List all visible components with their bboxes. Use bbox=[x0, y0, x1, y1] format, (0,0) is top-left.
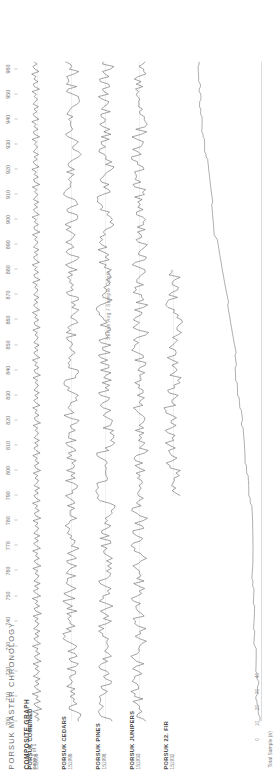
chronology-sheet: PORSUK MASTER CHRONOLOGY COMPOSITE GRAPH… bbox=[0, 0, 279, 777]
x-tick-mark bbox=[14, 544, 17, 545]
series-label: PORSUK PINES bbox=[94, 723, 100, 769]
series-label: PORSUK COMBINED bbox=[26, 708, 32, 769]
x-tick-label: 830 bbox=[4, 390, 10, 399]
series-polyline-svg bbox=[88, 61, 122, 721]
x-tick-mark bbox=[14, 494, 17, 495]
series-polyline-svg bbox=[20, 61, 54, 721]
x-tick-mark bbox=[14, 93, 17, 94]
series-label: PORSUK 22. FIR bbox=[162, 720, 168, 769]
x-tick-label: 920 bbox=[4, 164, 10, 173]
x-tick-label: 900 bbox=[4, 215, 10, 224]
x-tick-mark bbox=[14, 193, 17, 194]
x-tick-mark bbox=[14, 268, 17, 269]
depth-tick-label: 30 bbox=[254, 688, 259, 693]
series-id: 151930 bbox=[135, 753, 140, 769]
depth-tick-label: 0 bbox=[254, 738, 259, 741]
series-label: PORSUK CEDARS bbox=[60, 715, 66, 769]
x-tick-mark bbox=[14, 419, 17, 420]
x-tick-label: 760 bbox=[4, 566, 10, 575]
x-tick-label: 780 bbox=[4, 516, 10, 525]
x-tick-mark bbox=[14, 394, 17, 395]
depth-tick-label: 20 bbox=[254, 704, 259, 709]
x-tick-label: 890 bbox=[4, 240, 10, 249]
x-tick-label: 930 bbox=[4, 139, 10, 148]
x-tick-label: 880 bbox=[4, 265, 10, 274]
x-tick-mark bbox=[14, 519, 17, 520]
x-tick-mark bbox=[14, 168, 17, 169]
series-polyline-svg bbox=[122, 61, 156, 721]
x-tick-label: 750 bbox=[4, 591, 10, 600]
x-tick-mark bbox=[14, 318, 17, 319]
x-tick-label: 950 bbox=[4, 89, 10, 98]
x-tick-mark bbox=[14, 369, 17, 370]
x-tick-mark bbox=[14, 645, 17, 646]
x-tick-mark bbox=[14, 620, 17, 621]
x-tick-mark bbox=[14, 143, 17, 144]
series-trace bbox=[20, 61, 54, 721]
series-id: 151932 bbox=[169, 753, 174, 769]
x-tick-label: 770 bbox=[4, 541, 10, 550]
x-tick-label: 860 bbox=[4, 315, 10, 324]
series-label: PORSUK JUNIPERS bbox=[128, 710, 134, 769]
x-tick-label: 720 bbox=[4, 666, 10, 675]
x-tick-mark bbox=[14, 344, 17, 345]
x-tick-mark bbox=[14, 243, 17, 244]
series-polyline-svg bbox=[54, 61, 88, 721]
series-trace bbox=[54, 61, 88, 721]
x-tick-label: 800 bbox=[4, 466, 10, 475]
x-tick-label: 940 bbox=[4, 114, 10, 123]
x-tick-label: 820 bbox=[4, 415, 10, 424]
x-tick-mark bbox=[14, 68, 17, 69]
x-tick-label: 870 bbox=[4, 290, 10, 299]
x-tick-label: 700 bbox=[4, 717, 10, 726]
x-tick-label: 960 bbox=[4, 64, 10, 73]
series-id: 151998 bbox=[101, 753, 106, 769]
x-tick-mark bbox=[14, 218, 17, 219]
series-trace bbox=[122, 61, 156, 721]
x-tick-mark bbox=[14, 569, 17, 570]
x-tick-mark bbox=[14, 695, 17, 696]
x-tick-label: 850 bbox=[4, 340, 10, 349]
series-id: 151998 bbox=[33, 753, 38, 769]
depth-tick-label: 10 bbox=[254, 720, 259, 725]
series-trace bbox=[156, 61, 190, 721]
x-tick-mark bbox=[14, 595, 17, 596]
x-tick-label: 710 bbox=[4, 691, 10, 700]
x-tick-label: 730 bbox=[4, 641, 10, 650]
series-polyline-svg bbox=[156, 61, 190, 721]
x-tick-mark bbox=[14, 720, 17, 721]
x-tick-label: 810 bbox=[4, 440, 10, 449]
x-tick-mark bbox=[14, 444, 17, 445]
series-id: 151998 bbox=[67, 753, 72, 769]
depth-panel-title: Series Avg / Sample Depth bbox=[104, 270, 110, 340]
x-tick-label: 910 bbox=[4, 190, 10, 199]
depth-xaxis-label: Total Sample (n) bbox=[266, 731, 272, 767]
x-tick-mark bbox=[14, 118, 17, 119]
x-tick-mark bbox=[14, 469, 17, 470]
sample-depth-svg bbox=[190, 61, 262, 721]
x-tick-label: 790 bbox=[4, 491, 10, 500]
x-tick-mark bbox=[14, 670, 17, 671]
x-tick-label: 840 bbox=[4, 365, 10, 374]
series-trace bbox=[88, 61, 122, 721]
x-axis: 7007107207307407507607707807908008108208… bbox=[4, 61, 15, 721]
x-tick-label: 740 bbox=[4, 616, 10, 625]
sample-depth-panel: Series Avg / Sample DepthTotal Sample (n… bbox=[190, 61, 276, 721]
depth-tick-label: 40 bbox=[254, 672, 259, 677]
x-tick-mark bbox=[14, 293, 17, 294]
